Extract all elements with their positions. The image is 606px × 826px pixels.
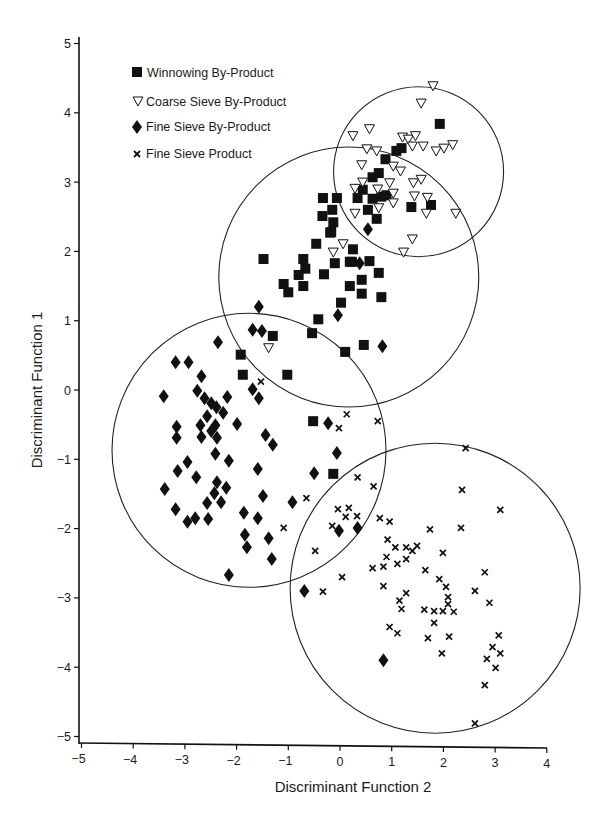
x-tick-label: −4: [123, 753, 137, 767]
triangle-marker: [451, 209, 461, 218]
legend: Winnowing By-Product Coarse Sieve By-Pro…: [132, 66, 287, 161]
triangle-marker: [431, 147, 441, 156]
triangle-marker: [264, 344, 274, 353]
y-tick-label: −2: [57, 522, 71, 536]
legend-item-coarse-sieve: Coarse Sieve By-Product: [133, 95, 287, 109]
triangle-marker: [407, 142, 417, 151]
square-marker: [319, 269, 329, 279]
x-tick-label: 3: [492, 756, 499, 770]
square-marker: [294, 270, 304, 280]
diamond-marker: [353, 521, 363, 535]
diamond-marker: [209, 486, 219, 500]
y-tick-label: 0: [64, 384, 71, 398]
diamond-marker: [334, 524, 344, 538]
cross-marker: [496, 632, 502, 638]
cross-marker: [380, 583, 386, 589]
diamond-marker: [239, 506, 249, 520]
cross-marker: [343, 514, 349, 520]
diamond-marker: [268, 438, 278, 452]
cross-marker: [375, 418, 381, 424]
cross-marker: [493, 665, 499, 671]
diamond-marker: [182, 455, 192, 469]
cross-marker: [472, 588, 478, 594]
cross-marker: [385, 537, 391, 543]
diamond-marker: [221, 481, 231, 495]
cross-marker: [484, 656, 490, 662]
x-tick-label: 0: [337, 755, 344, 769]
diamond-marker: [253, 462, 263, 476]
square-marker: [340, 347, 350, 357]
y-axis-title: Discriminant Function 1: [28, 312, 45, 469]
y-tick-label: −1: [57, 453, 71, 467]
cross-marker: [370, 565, 376, 571]
cross-marker: [403, 590, 409, 596]
cross-marker: [335, 506, 341, 512]
square-marker: [238, 370, 248, 380]
y-tick-label: 3: [64, 176, 71, 190]
cross-marker: [346, 505, 352, 511]
cross-marker: [486, 600, 492, 606]
group-circle: [219, 147, 479, 407]
cross-marker: [425, 635, 431, 641]
diamond-marker: [232, 417, 242, 431]
cross-marker: [394, 630, 400, 636]
cross-marker: [392, 544, 398, 550]
cross-marker: [440, 608, 446, 614]
square-marker: [318, 193, 328, 203]
diamond-marker: [309, 466, 319, 480]
cross-marker: [445, 601, 451, 607]
x-axis-title: Discriminant Function 2: [275, 778, 432, 795]
cross-marker: [329, 523, 335, 529]
diamond-marker: [171, 502, 181, 516]
diamond-marker: [212, 475, 222, 489]
legend-label: Winnowing By-Product: [147, 66, 274, 80]
x-tick-label: 2: [440, 756, 447, 770]
diamond-marker: [264, 531, 274, 545]
cross-marker: [371, 483, 377, 489]
diamond-marker: [222, 390, 232, 404]
triangle-marker: [421, 209, 431, 218]
triangle-marker: [364, 125, 374, 134]
x-axis-line: [79, 743, 547, 748]
cross-marker: [422, 567, 428, 573]
x-tick-label: 4: [543, 757, 550, 771]
cross-marker: [312, 548, 318, 554]
cross-marker: [377, 515, 383, 521]
series-coarse-sieve-by-product: [264, 82, 461, 353]
square-marker: [282, 370, 292, 380]
diamond-marker: [224, 568, 234, 582]
square-marker: [317, 211, 327, 221]
diamond-marker: [254, 300, 264, 314]
legend-label: Fine Sieve Product: [146, 147, 252, 161]
cross-marker: [355, 474, 361, 480]
cross-marker: [384, 554, 390, 560]
diamond-marker: [159, 389, 169, 403]
diamond-marker: [258, 489, 268, 503]
diamond-marker: [191, 470, 201, 484]
cross-marker: [387, 624, 393, 630]
diamond-marker: [323, 416, 333, 430]
cross-marker: [459, 487, 465, 493]
diamond-marker: [216, 495, 226, 509]
y-tick-label: 2: [64, 245, 71, 259]
diamond-marker: [195, 418, 205, 432]
y-tick-label: −5: [57, 730, 71, 744]
triangle-marker: [328, 248, 338, 257]
diamond-marker: [267, 552, 277, 566]
triangle-marker: [418, 142, 428, 151]
y-tick-label: −3: [57, 591, 71, 605]
square-marker: [364, 256, 374, 266]
triangle-marker: [416, 99, 426, 108]
square-marker: [327, 205, 337, 215]
cross-marker: [497, 507, 503, 513]
cross-marker: [421, 607, 427, 613]
legend-item-winnowing: Winnowing By-Product: [132, 66, 274, 80]
cross-marker: [436, 576, 442, 582]
cross-marker: [258, 379, 264, 385]
triangle-marker: [357, 161, 367, 170]
square-marker: [357, 275, 367, 285]
cross-marker: [396, 598, 402, 604]
y-tick-label: 1: [64, 314, 71, 328]
cross-marker: [490, 644, 496, 650]
legend-label: Fine Sieve By-Product: [146, 120, 271, 134]
